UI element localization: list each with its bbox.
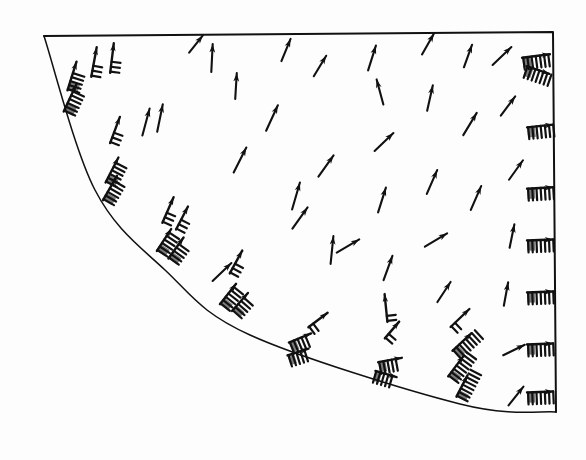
vector-field-canvas bbox=[0, 0, 586, 460]
vector-field-figure: Velocity vector field in quarter-annulus… bbox=[0, 0, 586, 460]
